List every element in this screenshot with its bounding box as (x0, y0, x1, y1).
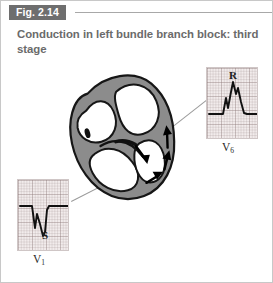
header-divider (75, 12, 273, 13)
wave-label-r: R (229, 69, 237, 81)
figure-header: Fig. 2.14 (1, 5, 273, 21)
figure-panel: Fig. 2.14 Conduction in left bundle bran… (0, 0, 273, 283)
heart-cross-section-diagram (57, 67, 193, 207)
ecg-panel-v1: S V1 (17, 179, 69, 251)
figure-title: Conduction in left bundle branch block: … (17, 27, 263, 56)
lead-label-v1: V1 (33, 253, 45, 265)
ecg-trace-v6 (209, 82, 257, 114)
lead-label-v6: V6 (222, 141, 234, 153)
lead-subscript-v6: 6 (230, 146, 234, 155)
wave-label-s: S (42, 229, 48, 241)
figure-number-badge: Fig. 2.14 (9, 5, 66, 20)
ecg-panel-v6: R V6 (206, 67, 258, 139)
lead-subscript-v1: 1 (41, 258, 45, 267)
